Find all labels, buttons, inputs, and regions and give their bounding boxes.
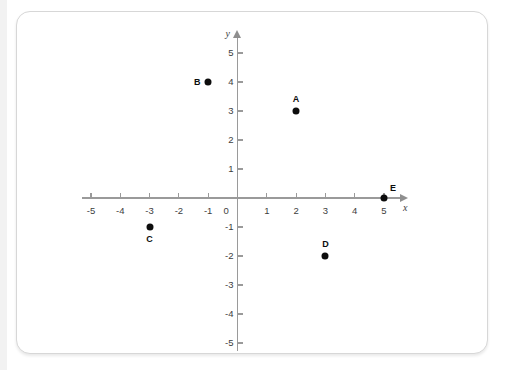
y-axis-tick [238, 168, 243, 169]
data-point-c [146, 224, 153, 231]
x-axis-tick [149, 193, 150, 198]
y-axis-tick [238, 139, 243, 140]
y-axis-line [237, 37, 238, 351]
origin-label: 0 [224, 206, 229, 216]
data-point-e [381, 195, 388, 202]
x-axis-tick-label: -1 [204, 206, 212, 216]
x-axis-tick-label: 2 [293, 206, 298, 216]
data-point-b [205, 79, 212, 86]
y-axis-tick [238, 313, 243, 314]
y-axis-tick-label: -4 [220, 309, 234, 319]
x-axis-tick-label: 1 [264, 206, 269, 216]
y-axis-tick-label: -1 [220, 222, 234, 232]
data-point-a [293, 108, 300, 115]
data-point-label-d: D [322, 240, 329, 249]
x-axis-label: x [403, 203, 407, 213]
y-axis-tick-label: 3 [220, 106, 234, 116]
x-axis-tick-label: -5 [87, 206, 95, 216]
data-point-label-c: C [146, 235, 153, 244]
x-axis-tick [90, 193, 91, 198]
y-axis-tick [238, 226, 243, 227]
y-axis-tick-label: -2 [220, 251, 234, 261]
x-axis-tick-label: 5 [381, 206, 386, 216]
x-axis-tick [354, 193, 355, 198]
x-axis-tick [120, 193, 121, 198]
y-axis-tick [238, 81, 243, 82]
x-axis-arrow-icon [400, 194, 408, 202]
y-axis-tick-label: -3 [220, 280, 234, 290]
y-axis-arrow-icon [233, 30, 241, 38]
x-axis-tick-label: 3 [323, 206, 328, 216]
x-axis-tick-label: -4 [116, 206, 124, 216]
y-axis-tick [238, 52, 243, 53]
x-axis-tick [208, 193, 209, 198]
y-axis-tick [238, 255, 243, 256]
data-point-label-b: B [194, 78, 201, 87]
x-axis-tick [325, 193, 326, 198]
y-axis-tick [238, 110, 243, 111]
x-axis-line [82, 197, 400, 198]
x-axis-tick [266, 193, 267, 198]
coordinate-plane-plot: xy-5-4-3-2-1012345-5-4-3-2-112345ABCDE [0, 0, 505, 370]
y-axis-tick-label: -5 [220, 338, 234, 348]
y-axis-label: y [226, 29, 230, 39]
x-axis-tick-label: -3 [145, 206, 153, 216]
y-axis-tick [238, 342, 243, 343]
y-axis-tick-label: 1 [220, 164, 234, 174]
x-axis-tick-label: 4 [352, 206, 357, 216]
y-axis-tick-label: 2 [220, 135, 234, 145]
x-axis-tick [296, 193, 297, 198]
y-axis-tick-label: 5 [220, 48, 234, 58]
y-axis-tick-label: 4 [220, 77, 234, 87]
x-axis-tick [178, 193, 179, 198]
data-point-label-e: E [390, 184, 396, 193]
y-axis-tick [238, 284, 243, 285]
screenshot-root: xy-5-4-3-2-1012345-5-4-3-2-112345ABCDE [0, 0, 505, 370]
x-axis-tick-label: -2 [175, 206, 183, 216]
data-point-d [322, 253, 329, 260]
data-point-label-a: A [293, 95, 300, 104]
